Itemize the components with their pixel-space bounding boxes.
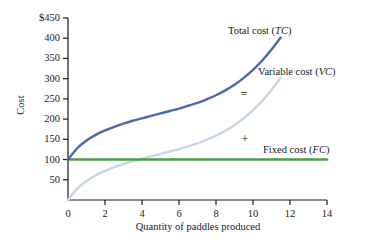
x-axis-tick-label: 4 [139,209,144,220]
cost-curves-chart: 50100150200250300350400$450 02468101214 … [0,0,367,243]
series-paths [68,37,327,200]
x-axis-tick-label: 8 [213,209,218,220]
y-axis-tick-label: 50 [50,175,61,186]
y-axis-tick-label: 250 [44,94,60,105]
x-axis-tick-label: 12 [285,209,296,220]
y-axis-tick-label: 300 [44,73,60,84]
y-axis-ticks [63,18,68,180]
x-axis-tick-label: 0 [65,209,70,220]
series-path-variable-cost-vc [68,78,281,200]
y-axis-title: Cost [16,95,27,114]
plus-operator-annotation: + [242,133,249,145]
series-label-variable-cost-abbr: VC [319,66,332,77]
x-axis-tick-label: 14 [322,209,333,220]
series-label-total-cost-abbr: TC [275,25,288,36]
series-label-fixed-cost-text: Fixed cost ( [263,144,313,155]
series-label-total-cost: Total cost (TC) [228,26,291,37]
x-axis-ticks [105,200,327,205]
y-axis-tick-label: $450 [39,13,60,24]
series-label-fixed-cost-abbr: FC [313,144,326,155]
series-label-fixed-cost-suffix: ) [326,144,330,155]
series-label-variable-cost-suffix: ) [332,66,336,77]
x-axis-tick-label: 2 [102,209,107,220]
y-axis-tick-label: 400 [44,33,60,44]
y-axis-tick-label: 200 [44,114,60,125]
equals-operator-annotation: = [241,88,248,100]
x-axis-tick-label: 10 [248,209,259,220]
series-label-total-cost-suffix: ) [288,25,292,36]
series-path-total-cost-tc [68,37,281,159]
series-label-variable-cost: Variable cost (VC) [258,67,336,78]
series-label-total-cost-text: Total cost ( [228,25,275,36]
axes-group [68,18,327,200]
y-axis-tick-label: 100 [44,154,60,165]
x-axis-title: Quantity of paddles produced [136,222,261,233]
x-axis-tick-label: 6 [176,209,181,220]
y-axis-tick-label: 350 [44,53,60,64]
series-label-fixed-cost: Fixed cost (FC) [263,145,330,156]
y-axis-tick-label: 150 [44,134,60,145]
series-label-variable-cost-text: Variable cost ( [258,66,319,77]
